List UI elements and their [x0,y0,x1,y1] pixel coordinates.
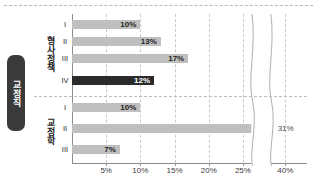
group-label-1: 교정학 [44,106,57,156]
row-label-0-0: I [60,20,70,29]
group-label-0: 형사정책 [44,23,57,85]
row-label-1-1: II [60,124,70,133]
outer-category-badge: 교정직 [7,55,25,131]
chart-page: 교정직 형사정책 교정학 10%13%17%12%10%31%7% 5%10%1… [0,0,317,191]
row-label-0-3: IV [60,76,70,85]
outer-category-label: 교정직 [11,80,21,107]
page-separator-rule [4,5,313,6]
x-tick-label-15%: 15% [167,166,183,175]
gridline-20% [209,14,210,163]
bar-value-label-1-0: 10% [116,103,136,112]
group-label-0-text: 형사정책 [45,36,56,72]
x-tick-label-20%: 20% [201,166,217,175]
group-separator [34,96,307,97]
bar-value-label-1-2: 7% [96,145,116,154]
bar-value-label-0-2: 17% [164,54,184,63]
bar-1-1 [72,124,259,133]
row-label-1-0: I [60,103,70,112]
x-tick-label-10%: 10% [132,166,148,175]
plot-area: 10%13%17%12%10%31%7% [72,14,299,163]
bar-value-label-0-3: 12% [130,76,150,85]
bar-value-label-0-1: 13% [137,37,157,46]
bar-value-label-1-1: 31% [278,124,294,133]
gridline-40% [285,14,286,163]
row-label-0-1: II [60,37,70,46]
gridline-15% [175,14,176,163]
x-tick-label-40%: 40% [277,166,293,175]
x-tick-label-5%: 5% [100,166,112,175]
bar-value-label-0-0: 10% [116,20,136,29]
group-label-1-text: 교정학 [45,118,56,145]
row-label-1-2: III [60,145,70,154]
row-label-0-2: III [60,54,70,63]
x-axis-line [72,163,307,164]
gridline-25% [243,14,244,163]
x-tick-label-25%: 25% [235,166,251,175]
